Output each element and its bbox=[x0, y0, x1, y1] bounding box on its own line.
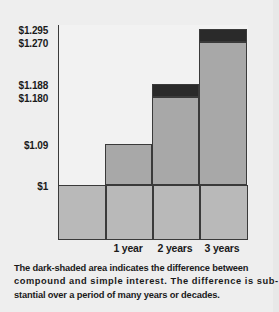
bar-1-year-simple bbox=[105, 144, 152, 185]
x-tick-label-3-years: 3 years bbox=[205, 242, 240, 254]
bar-2-years-compound bbox=[152, 84, 199, 97]
caption-line-1: The dark-shaded area indicates the diffe… bbox=[14, 262, 262, 275]
y-tick-label-1295: $1.295 bbox=[19, 25, 48, 36]
y-tick-label-1270: $1.270 bbox=[19, 38, 48, 49]
y-axis: $1.295 $1.270 $1.188 $1.180 $1.09 $1 bbox=[0, 0, 58, 240]
chart-figure: $1.295 $1.270 $1.188 $1.180 $1.09 $1 bbox=[0, 0, 273, 312]
y-tick-label-1180: $1.180 bbox=[19, 93, 48, 104]
bar-3-years-simple bbox=[199, 42, 247, 185]
y-tick-label-109: $1.09 bbox=[24, 140, 48, 151]
y-tick-label-1188: $1.188 bbox=[19, 80, 48, 91]
caption-line-2: compound and simple interest. The differ… bbox=[14, 275, 262, 288]
x-axis: 1 year 2 years 3 years bbox=[58, 242, 248, 258]
bar-3-years-compound bbox=[199, 29, 247, 42]
x-tick-label-2-years: 2 years bbox=[158, 242, 193, 254]
bar-group bbox=[59, 25, 248, 239]
plot-area bbox=[58, 25, 248, 240]
y-tick-label-1: $1 bbox=[37, 181, 48, 192]
x-tick-label-1-year: 1 year bbox=[113, 242, 142, 254]
caption-line-3: stantial over a period of many years or … bbox=[14, 289, 262, 302]
chart-caption: The dark-shaded area indicates the diffe… bbox=[14, 262, 262, 302]
bar-2-years-simple bbox=[152, 97, 199, 185]
